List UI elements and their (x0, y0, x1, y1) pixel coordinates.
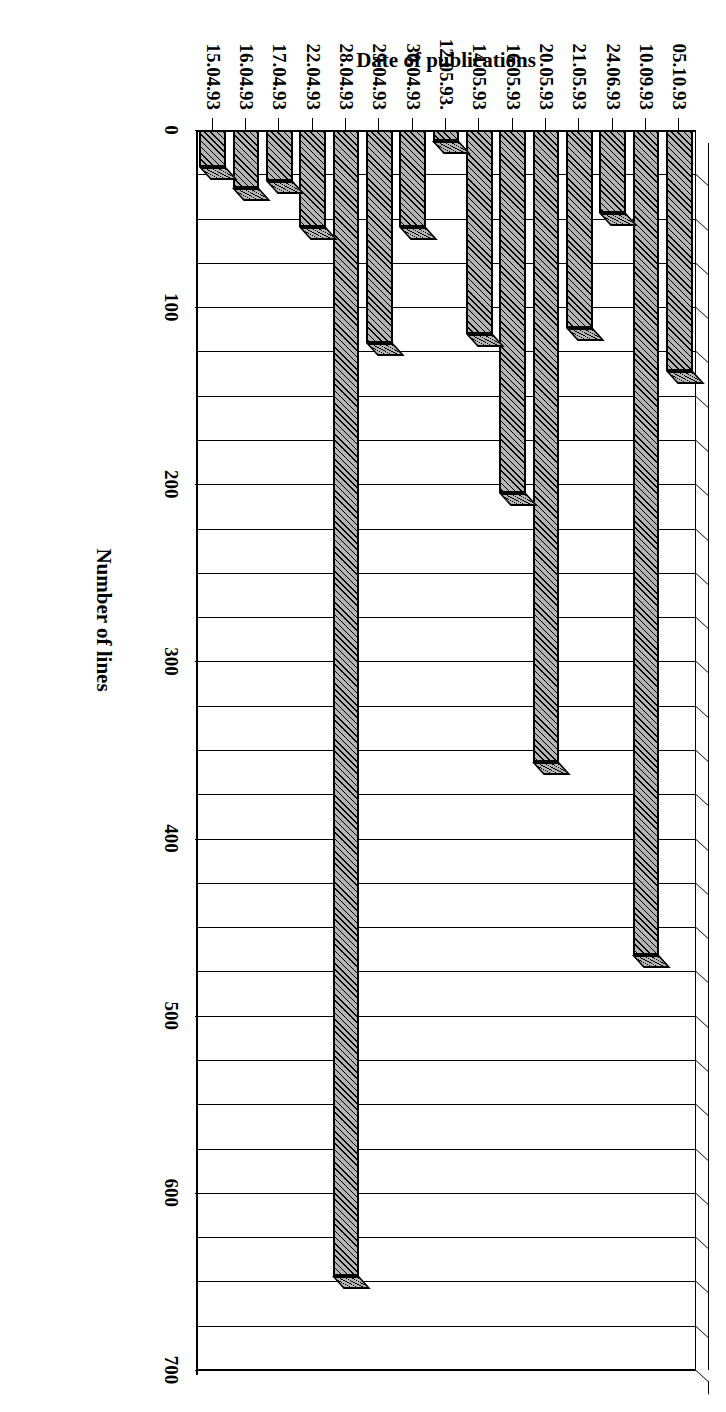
category-axis-tick (645, 118, 646, 130)
category-axis-label: 10.09.93 (635, 44, 657, 111)
category-axis-tick (212, 118, 213, 130)
value-axis-tick-label: 500 (160, 1001, 182, 1030)
bar-column (366, 130, 393, 356)
bars-group (196, 130, 696, 1370)
bar-column (533, 130, 560, 775)
bar-face (666, 130, 693, 371)
category-axis-label: 28.04.93 (335, 44, 357, 111)
category-axis-tick (445, 118, 446, 130)
category-axis-label: 15.04.93 (202, 44, 224, 111)
bar-end-cap (399, 227, 437, 240)
category-axis-tick (378, 118, 379, 130)
bar-column (333, 130, 360, 1289)
bar-column (266, 130, 293, 194)
category-axis-tick (678, 118, 679, 130)
bar-column (566, 130, 593, 341)
bar-column (599, 130, 626, 226)
value-axis-baseline (196, 130, 198, 1375)
category-axis-label: 30.04.93 (402, 44, 424, 111)
category-axis-label: 21.05.93 (568, 44, 590, 111)
bar-face (566, 130, 593, 328)
bar-column (433, 130, 460, 154)
bar-face (399, 130, 426, 227)
rotated-figure-container: Number of lines Date of publications 010… (0, 0, 726, 1412)
category-axis-tick (578, 118, 579, 130)
bar-column (199, 130, 226, 180)
bar-end-cap (666, 371, 704, 384)
gridline-depth-riser (696, 1370, 709, 1395)
category-axis-tick (612, 118, 613, 130)
category-axis-tick (512, 118, 513, 130)
category-axis-label: 17.04.93 (268, 44, 290, 111)
bar-face (599, 130, 626, 213)
category-axis-tick (412, 118, 413, 130)
category-axis-tick (278, 118, 279, 130)
bar-end-cap (633, 955, 671, 968)
bar-end-cap (533, 762, 571, 775)
bar-column (633, 130, 660, 968)
category-axis-tick (312, 118, 313, 130)
bar-face (366, 130, 393, 343)
bar-column (666, 130, 693, 384)
bar-face (333, 130, 360, 1276)
bar-face (466, 130, 493, 334)
gridline (196, 1370, 696, 1371)
bar-face (499, 130, 526, 493)
value-axis-title: Number of lines (91, 548, 116, 691)
bar-face (266, 130, 293, 181)
value-axis-tick-label: 0 (160, 125, 182, 135)
category-axis-label: 14.05.93 (468, 44, 490, 111)
category-axis-spine (196, 130, 696, 132)
category-axis-tick (545, 118, 546, 130)
category-axis-label: 29.04.93 (368, 44, 390, 111)
category-axis-tick (245, 118, 246, 130)
bar-end-cap (333, 1276, 371, 1289)
bar-face (199, 130, 226, 167)
value-axis-tick-label: 700 (160, 1356, 182, 1385)
figure-page: Number of lines Date of publications 010… (0, 0, 726, 1412)
value-axis-tick-label: 600 (160, 1179, 182, 1208)
category-axis-label: 20.05.93 (535, 44, 557, 111)
bar-face (633, 130, 660, 955)
bar-column (399, 130, 426, 240)
category-axis-label: 22.04.93 (302, 44, 324, 111)
category-axis-tick (478, 118, 479, 130)
bar-column (499, 130, 526, 506)
category-axis-label: 12.05.93. (435, 39, 457, 110)
bar-end-cap (566, 328, 604, 341)
category-axis-tick (345, 118, 346, 130)
category-axis-label: 05.10.93 (668, 44, 690, 111)
bar-column (299, 130, 326, 240)
value-axis-tick-label: 400 (160, 824, 182, 853)
bar-face (299, 130, 326, 227)
category-axis-label: 16.05.93 (502, 44, 524, 111)
bar-column (233, 130, 260, 201)
category-axis-label: 16.04.93 (235, 44, 257, 111)
bar-column (466, 130, 493, 347)
bar-face (533, 130, 560, 762)
value-axis-tick-label: 100 (160, 293, 182, 322)
category-axis-label: 24.06.93 (602, 44, 624, 111)
plot-top-edge (708, 143, 709, 1370)
chart-plot-area: 0100200300400500600700 05.10.9310.09.932… (196, 130, 696, 1370)
value-axis-tick-label: 300 (160, 647, 182, 676)
bar-end-cap (366, 343, 404, 356)
value-axis-tick-label: 200 (160, 470, 182, 499)
